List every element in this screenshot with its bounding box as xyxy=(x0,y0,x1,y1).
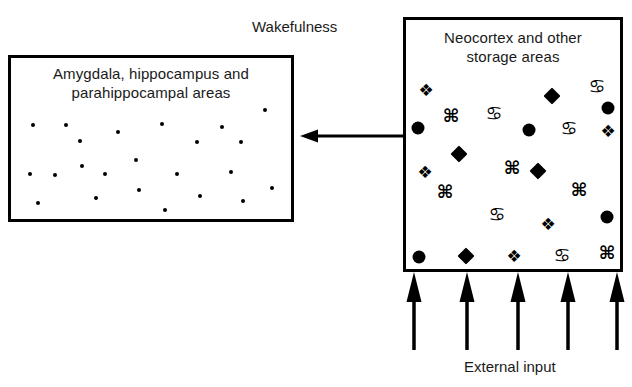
wakefulness-label: Wakefulness xyxy=(252,18,337,36)
cancer-mark: ♋ xyxy=(485,104,502,123)
external-input-arrow-4 xyxy=(561,272,576,350)
circle-mark xyxy=(413,251,426,264)
floret-mark: ❖ xyxy=(506,248,521,265)
external-input-label: External input xyxy=(464,358,556,376)
memory-trace-dot xyxy=(137,188,141,192)
circle-mark xyxy=(523,124,536,137)
floret-mark: ❖ xyxy=(600,123,615,140)
memory-trace-dot xyxy=(78,139,82,143)
memory-trace-dot xyxy=(80,164,84,168)
memory-trace-dot xyxy=(220,125,224,129)
memory-trace-dot xyxy=(116,130,120,134)
diagram-canvas: Wakefulness Amygdala, hippocampus and pa… xyxy=(0,0,632,387)
memory-trace-dot xyxy=(195,140,199,144)
memory-trace-dot xyxy=(64,123,68,127)
memory-trace-dot xyxy=(31,123,35,127)
command-mark: ⌘ xyxy=(599,244,616,262)
external-input-arrow-5 xyxy=(610,272,625,350)
floret-mark: ❖ xyxy=(418,82,433,99)
memory-trace-dot xyxy=(239,140,243,144)
diamond-mark xyxy=(458,248,475,265)
external-input-arrows xyxy=(400,272,632,354)
memory-trace-dot xyxy=(103,172,107,176)
circle-mark xyxy=(412,122,425,135)
amygdala-hippocampus-box: Amygdala, hippocampus and parahippocampa… xyxy=(8,55,294,222)
neocortex-storage-box: Neocortex and other storage areas ❖♋⌘♋♋❖… xyxy=(403,17,623,272)
diamond-mark xyxy=(451,146,468,163)
external-input-arrow-1 xyxy=(407,272,422,350)
neocortex-to-hippocampus-arrow xyxy=(296,126,408,146)
memory-trace-dot xyxy=(175,172,179,176)
memory-trace-dot xyxy=(134,158,138,162)
floret-mark: ❖ xyxy=(417,164,432,181)
floret-mark: ❖ xyxy=(540,216,555,233)
cancer-mark: ♋ xyxy=(560,119,577,138)
memory-trace-dot xyxy=(229,170,233,174)
memory-trace-dot xyxy=(263,108,267,112)
diamond-mark xyxy=(530,163,547,180)
circle-mark xyxy=(601,211,614,224)
neocortex-box-title: Neocortex and other storage areas xyxy=(406,28,620,66)
memory-trace-dot xyxy=(36,201,40,205)
cancer-mark: ♋ xyxy=(553,246,570,265)
diamond-mark xyxy=(544,88,561,105)
cancer-mark: ♋ xyxy=(488,205,505,224)
memory-trace-dot xyxy=(198,194,202,198)
amygdala-box-title: Amygdala, hippocampus and parahippocampa… xyxy=(11,64,291,102)
memory-trace-dot xyxy=(53,173,57,177)
memory-trace-dot xyxy=(160,122,164,126)
external-input-arrow-2 xyxy=(460,272,475,350)
command-mark: ⌘ xyxy=(443,107,460,125)
command-mark: ⌘ xyxy=(437,183,454,201)
memory-trace-dot xyxy=(163,208,167,212)
memory-trace-dot xyxy=(28,172,32,176)
external-input-arrow-3 xyxy=(511,272,526,350)
memory-trace-dot xyxy=(94,196,98,200)
circle-mark xyxy=(602,102,615,115)
memory-trace-dot xyxy=(270,186,274,190)
memory-trace-dot xyxy=(241,199,245,203)
command-mark: ⌘ xyxy=(504,159,521,177)
command-mark: ⌘ xyxy=(571,181,588,199)
cancer-mark: ♋ xyxy=(588,77,605,96)
